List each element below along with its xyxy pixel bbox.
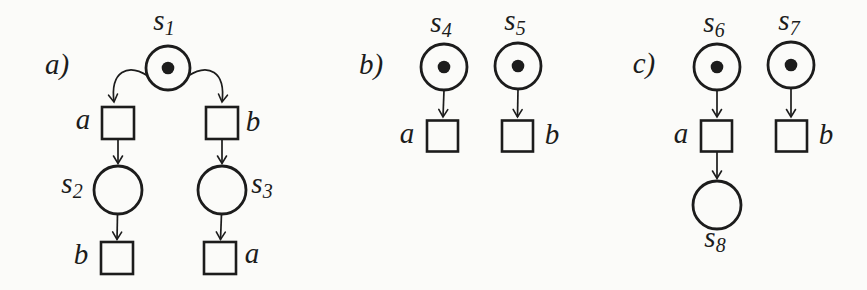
transition-label-a-lower-a: a [245,237,260,269]
place-label-s8: s8 [704,221,725,256]
place-s3 [198,166,246,214]
transition-a-upper-a [102,107,134,139]
transition-a-c [701,121,732,152]
place-label-s2: s2 [61,167,82,202]
transition-a-lower-a [204,242,236,274]
place-label-s7: s7 [778,4,800,39]
panel-a: a)s1s2s3abba [45,4,273,274]
panel-label-a: a) [45,48,69,81]
arc-s1-to-b-upper-a [188,70,223,102]
token-s1 [162,62,175,75]
place-label-s1: s1 [153,4,174,39]
arc-s1-to-a-upper-a [113,70,148,102]
arc-s5-to-b-b [518,89,519,117]
panel-c: c)s6s7s8ab [633,4,834,256]
transition-label-a-upper-a: a [76,103,91,135]
place-label-s5: s5 [504,4,525,39]
transition-label-b-lower-a: b [74,238,89,270]
place-label-s3: s3 [251,167,272,202]
transition-label-b-b: b [545,118,560,150]
transition-label-b-upper-a: b [246,105,261,137]
panel-label-c: c) [633,47,656,80]
transition-label-a-b: a [400,117,415,149]
token-s5 [512,60,525,73]
transition-b-lower-a [101,242,133,274]
token-s4 [438,61,451,74]
arc-s4-to-a-b [443,90,444,117]
place-label-s6: s6 [703,6,724,41]
arc-s3-to-a-lower-a [221,214,222,240]
transition-b-upper-a [206,107,238,139]
figure-canvas: a)s1s2s3abbab)s4s5abc)s6s7s8ab [0,0,867,290]
transition-a-b [427,121,458,152]
token-s6 [711,61,724,74]
panel-b: b)s4s5ab [359,4,559,152]
arc-s2-to-b-lower-a [117,214,118,240]
token-s7 [785,59,798,72]
petri-net-figure: a)s1s2s3abbab)s4s5abc)s6s7s8ab [0,0,867,290]
panel-label-b: b) [359,48,383,81]
place-label-s4: s4 [430,6,451,41]
place-s2 [94,166,142,214]
place-s8 [693,181,741,229]
transition-b-b [502,121,533,152]
transition-b-c [776,121,807,152]
transition-label-b-c: b [819,118,834,150]
transition-label-a-c: a [674,117,689,149]
